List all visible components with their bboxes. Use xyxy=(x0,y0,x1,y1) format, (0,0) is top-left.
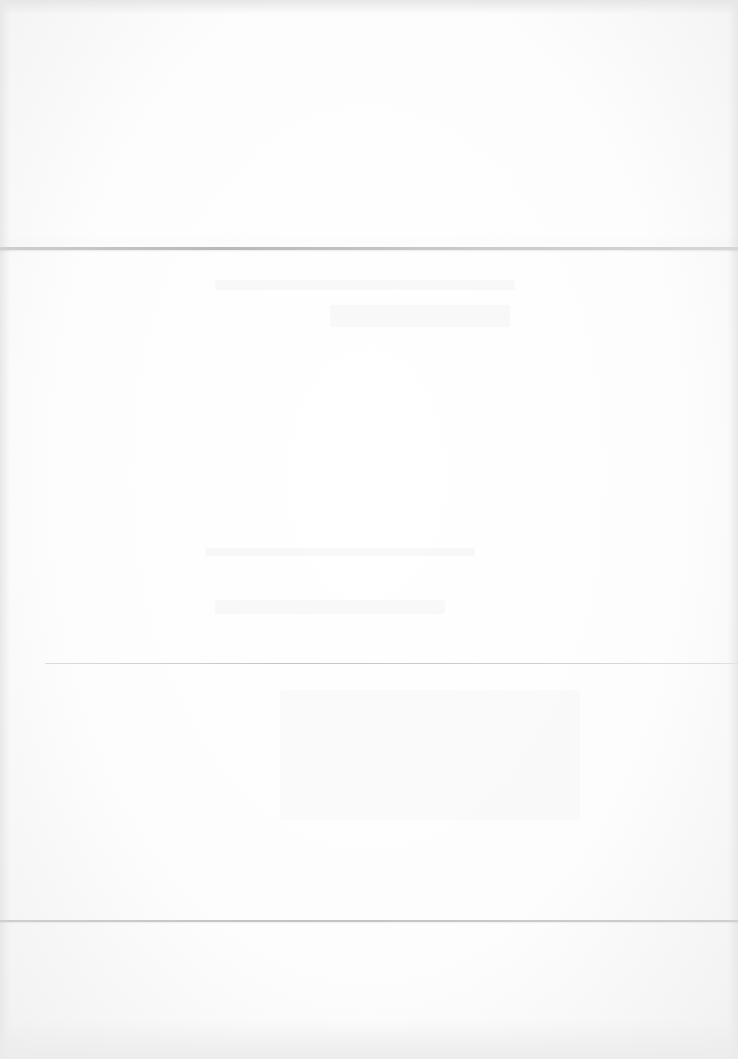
fold-crease-top xyxy=(0,247,738,250)
paper-right-edge-shadow xyxy=(728,0,738,1059)
paper-bottom-edge-shadow xyxy=(0,1019,738,1059)
paper-sheet xyxy=(0,0,738,1059)
show-through-mark xyxy=(280,690,580,820)
show-through-mark xyxy=(330,305,510,327)
show-through-mark xyxy=(205,548,475,556)
paper-left-edge-shadow xyxy=(0,0,10,1059)
show-through-mark xyxy=(215,600,445,614)
show-through-mark xyxy=(215,280,515,290)
fold-crease-middle xyxy=(45,663,738,664)
paper-top-edge-shadow xyxy=(0,0,738,14)
fold-crease-bottom xyxy=(0,920,738,922)
